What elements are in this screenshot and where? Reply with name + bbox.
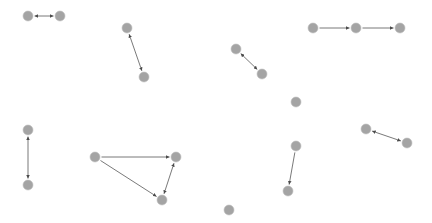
nodes-layer	[23, 11, 412, 215]
node-n16	[171, 152, 181, 162]
graph-canvas	[0, 0, 432, 223]
node-n11	[361, 124, 371, 134]
node-n12	[402, 138, 412, 148]
node-n20	[224, 205, 234, 215]
node-n10	[291, 97, 301, 107]
node-n2	[55, 11, 65, 21]
node-n4	[139, 72, 149, 82]
node-n8	[351, 23, 361, 33]
node-n13	[23, 125, 33, 135]
node-n6	[257, 69, 267, 79]
node-n1	[23, 11, 33, 21]
edge-n5-n6	[241, 54, 258, 70]
edge-n11-n12	[372, 131, 401, 141]
edge-n18-n19	[289, 152, 295, 184]
edge-n3-n4	[129, 34, 142, 71]
edge-n15-n17	[100, 161, 156, 197]
edge-n17-n16	[164, 163, 174, 194]
node-n19	[283, 186, 293, 196]
node-n15	[90, 152, 100, 162]
node-n3	[122, 23, 132, 33]
node-n17	[157, 195, 167, 205]
node-n9	[395, 23, 405, 33]
node-n7	[308, 23, 318, 33]
node-n5	[231, 44, 241, 54]
edges-layer	[28, 16, 401, 196]
node-n14	[23, 180, 33, 190]
node-n18	[291, 141, 301, 151]
